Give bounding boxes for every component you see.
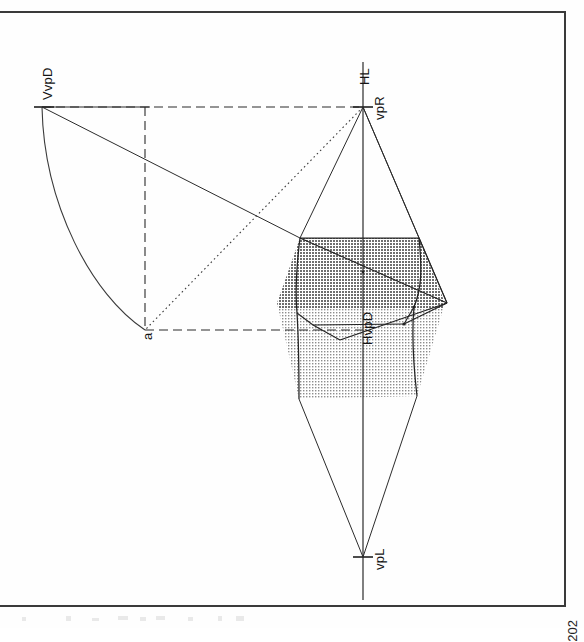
page-number: 202 bbox=[565, 620, 580, 642]
label-vpr: vpR bbox=[372, 96, 387, 120]
label-hl: HL bbox=[357, 68, 372, 85]
label-a: a bbox=[140, 333, 155, 340]
swing-arc bbox=[42, 107, 145, 330]
ray-vpr-cube-top-left bbox=[300, 107, 363, 238]
label-vvpd: VvpD bbox=[40, 67, 55, 100]
ray-vpl-cube-bottom-right bbox=[363, 396, 417, 557]
label-hvpd: HvpD bbox=[360, 312, 375, 345]
label-vpl: vpL bbox=[372, 548, 387, 570]
ray-vvpd-to-cube bbox=[42, 107, 300, 238]
ray-vpl-cube-bottom-left bbox=[299, 399, 363, 557]
